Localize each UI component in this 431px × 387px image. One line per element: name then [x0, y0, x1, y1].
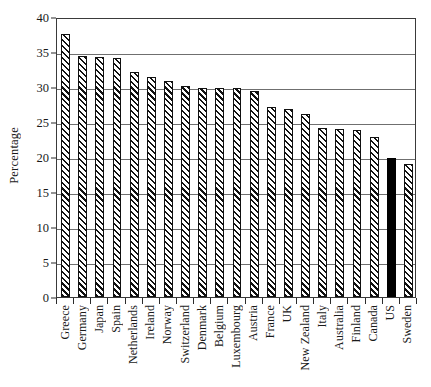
y-axis-tick-label: 30 [37, 81, 50, 96]
bar-finland [353, 130, 362, 297]
y-axis-tick-label: 40 [37, 11, 50, 26]
bar-norway [164, 81, 173, 297]
bar-denmark [198, 88, 207, 297]
x-axis-tick-mark [365, 298, 366, 304]
bar-ireland [147, 77, 156, 297]
x-axis-label-denmark: Denmark [196, 305, 208, 350]
x-axis-label-austria: Austria [247, 305, 259, 341]
x-axis-label-new-zealand: New Zealand [299, 305, 311, 370]
y-axis-tick-labels: 0510152025303540 [24, 18, 56, 298]
bar-greece [61, 34, 70, 297]
bar-italy [318, 128, 327, 297]
x-axis-label-switzerland: Switzerland [179, 305, 191, 363]
x-axis-tick-mark [399, 298, 400, 304]
x-axis-label-canada: Canada [367, 305, 379, 342]
x-axis-tick-mark [142, 298, 143, 304]
y-axis-tick-label: 10 [37, 221, 50, 236]
bar-belgium [215, 88, 224, 297]
x-axis-label-spain: Spain [110, 305, 122, 333]
x-axis-tick-mark [416, 298, 417, 304]
bar-new-zealand [301, 114, 310, 297]
bar-series [57, 19, 415, 297]
x-axis-tick-mark [262, 298, 263, 304]
x-axis-label-luxembourg: Luxembourg [230, 305, 242, 368]
x-axis-tick-mark [73, 298, 74, 304]
bar-australia [335, 129, 344, 297]
x-axis-label-netherlands: Netherlands [127, 305, 139, 364]
plot-area [56, 18, 416, 298]
x-axis-label-finland: Finland [350, 305, 362, 342]
bar-chart-figure: Percentage 0510152025303540 GreeceGerman… [0, 0, 431, 387]
x-axis-label-japan: Japan [93, 305, 105, 333]
x-axis-tick-mark [176, 298, 177, 304]
y-axis-tick-label: 35 [37, 46, 50, 61]
x-axis-label-norway: Norway [161, 305, 173, 344]
x-axis-category-labels: GreeceGermanyJapanSpainNetherlandsIrelan… [56, 305, 416, 387]
y-axis-title-text: Percentage [7, 127, 22, 184]
x-axis-tick-mark [107, 298, 108, 304]
x-axis-label-italy: Italy [316, 305, 328, 328]
bar-uk [284, 109, 293, 297]
x-axis-label-australia: Australia [333, 305, 345, 350]
x-axis-label-us: US [384, 305, 396, 321]
bar-germany [78, 56, 87, 298]
x-axis-label-belgium: Belgium [213, 305, 225, 347]
bar-netherlands [130, 72, 139, 297]
bar-sweden [404, 164, 413, 297]
x-axis-label-sweden: Sweden [401, 305, 413, 344]
y-axis-tick-label: 0 [43, 291, 49, 306]
x-axis-tick-mark [56, 298, 57, 304]
x-axis-tick-mark [296, 298, 297, 304]
y-axis-tick-label: 20 [37, 151, 50, 166]
x-axis-label-ireland: Ireland [144, 305, 156, 340]
x-axis-tick-mark [227, 298, 228, 304]
y-axis-tick-label: 25 [37, 116, 50, 131]
bar-luxembourg [233, 88, 242, 297]
bar-switzerland [181, 86, 190, 297]
x-axis-tick-mark [279, 298, 280, 304]
x-axis-tick-mark [330, 298, 331, 304]
bar-canada [370, 137, 379, 297]
y-axis-tick-label: 15 [37, 186, 50, 201]
x-axis-label-france: France [264, 305, 276, 338]
x-axis-tick-mark [193, 298, 194, 304]
y-axis-tick-label: 5 [43, 256, 49, 271]
bar-austria [250, 91, 259, 298]
x-axis-tick-mark [245, 298, 246, 304]
x-axis-tick-mark [90, 298, 91, 304]
bar-spain [113, 58, 122, 297]
x-axis-tick-mark [125, 298, 126, 304]
x-axis-tick-mark [159, 298, 160, 304]
x-axis-tick-mark [347, 298, 348, 304]
x-axis-tick-mark [382, 298, 383, 304]
x-axis-label-germany: Germany [76, 305, 88, 350]
bar-japan [95, 57, 104, 297]
x-axis-tick-mark [313, 298, 314, 304]
x-axis-tick-mark [210, 298, 211, 304]
bar-us [387, 158, 396, 297]
bar-france [267, 107, 276, 297]
x-axis-label-uk: UK [281, 305, 293, 323]
x-axis-label-greece: Greece [59, 305, 71, 340]
